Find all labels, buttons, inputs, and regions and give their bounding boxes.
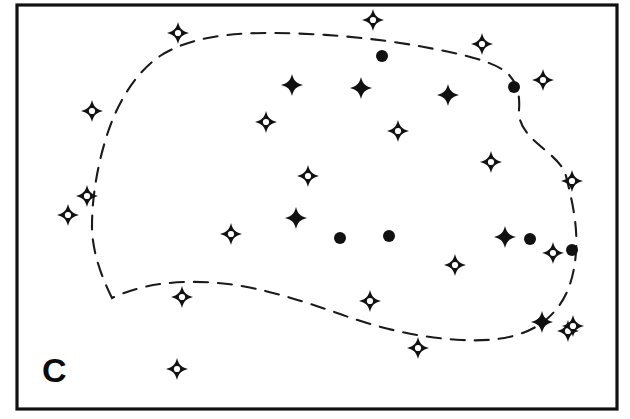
filled-dot-marker-2 xyxy=(334,232,346,244)
figure-background xyxy=(0,0,630,419)
figure-panel-c: C xyxy=(0,0,630,419)
panel-label-c: C xyxy=(42,351,67,389)
scatter-figure-svg: C xyxy=(0,0,630,419)
filled-dot-marker-5 xyxy=(566,244,578,256)
filled-dot-marker-4 xyxy=(524,233,536,245)
filled-dot-marker-3 xyxy=(383,230,395,242)
filled-dot-marker-1 xyxy=(508,81,520,93)
filled-dot-marker-0 xyxy=(376,50,388,62)
